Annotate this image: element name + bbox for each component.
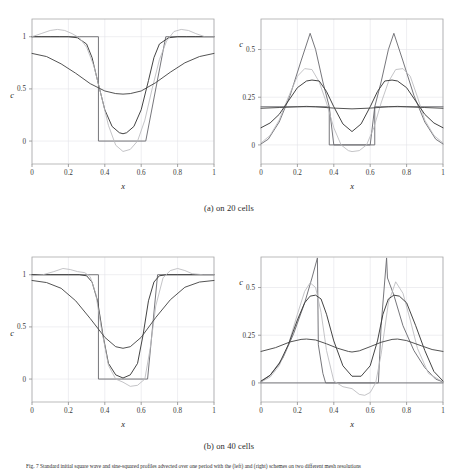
x-tick-label: 0: [259, 407, 263, 415]
series-line: [32, 275, 214, 378]
x-tick-label: 0.4: [100, 169, 109, 177]
x-tick-label: 1: [212, 407, 216, 415]
y-axis-label: c: [239, 278, 243, 287]
x-tick-label: 0.2: [293, 407, 302, 415]
x-axis-label: x: [349, 420, 354, 429]
plot-panel-top-left: 00.20.40.60.8100.51xc: [0, 0, 229, 200]
series-line: [261, 106, 443, 108]
x-tick-label: 0.6: [366, 169, 375, 177]
series-line: [32, 53, 214, 94]
y-axis-label: c: [10, 329, 14, 338]
chart-bottom-right: 00.20.40.60.8100.250.5xc: [229, 238, 458, 438]
x-tick-label: 0.2: [293, 169, 302, 177]
figure-caption: Fig. 7 Standard initial square wave and …: [26, 463, 436, 474]
y-tick-label: 0: [22, 376, 26, 384]
x-tick-label: 0: [30, 407, 34, 415]
y-tick-label: 0.25: [242, 332, 255, 340]
x-tick-label: 0.8: [173, 169, 182, 177]
series-line: [261, 295, 443, 381]
x-tick-label: 0.4: [329, 169, 338, 177]
series-line: [261, 107, 443, 145]
x-tick-label: 0.6: [137, 407, 146, 415]
subcaption-b: (b) on 40 cells: [0, 438, 458, 454]
series-line: [32, 280, 214, 348]
y-tick-label: 0.5: [17, 85, 26, 93]
panel-row-a: 00.20.40.60.8100.51xc 00.20.40.60.8100.2…: [0, 0, 458, 200]
series-line: [32, 37, 214, 134]
y-tick-label: 1: [22, 271, 26, 279]
x-tick-label: 0: [259, 169, 263, 177]
y-tick-label: 0: [251, 142, 255, 150]
y-axis-label: c: [10, 91, 14, 100]
x-tick-label: 0.4: [329, 407, 338, 415]
x-tick-label: 0.8: [173, 407, 182, 415]
y-tick-label: 0.5: [246, 284, 255, 292]
x-tick-label: 0.8: [402, 169, 411, 177]
x-axis-label: x: [349, 182, 354, 191]
x-tick-label: 0.2: [64, 407, 73, 415]
y-axis-label: c: [239, 40, 243, 49]
x-tick-label: 1: [441, 407, 445, 415]
y-tick-label: 0.5: [246, 46, 255, 54]
x-tick-label: 0.2: [64, 169, 73, 177]
series-line: [261, 33, 443, 145]
plot-panel-bottom-right: 00.20.40.60.8100.250.5xc: [229, 238, 458, 438]
x-tick-label: 0: [30, 169, 34, 177]
x-tick-label: 0.8: [402, 407, 411, 415]
y-tick-label: 0: [22, 138, 26, 146]
x-tick-label: 0.4: [100, 407, 109, 415]
y-tick-label: 0.25: [242, 94, 255, 102]
figure-container: 00.20.40.60.8100.51xc 00.20.40.60.8100.2…: [0, 0, 458, 474]
series-line: [261, 80, 443, 132]
subcaption-a: (a) on 20 cells: [0, 200, 458, 216]
y-tick-label: 0: [251, 380, 255, 388]
panel-row-b: 00.20.40.60.8100.51xc 00.20.40.60.8100.2…: [0, 238, 458, 438]
y-tick-label: 1: [22, 33, 26, 41]
series-line: [261, 282, 443, 396]
series-line: [261, 69, 443, 152]
x-tick-label: 0.6: [366, 407, 375, 415]
x-axis-label: x: [120, 182, 125, 191]
row-gap-spacer: [0, 216, 458, 238]
chart-bottom-left: 00.20.40.60.8100.51xc: [0, 238, 229, 438]
series-line: [261, 258, 443, 383]
plot-panel-bottom-left: 00.20.40.60.8100.51xc: [0, 238, 229, 438]
x-tick-label: 0.6: [137, 169, 146, 177]
plot-panel-top-right: 00.20.40.60.8100.250.5xc: [229, 0, 458, 200]
series-line: [32, 29, 214, 151]
x-tick-label: 1: [212, 169, 216, 177]
y-tick-label: 0.5: [17, 323, 26, 331]
chart-top-left: 00.20.40.60.8100.51xc: [0, 0, 229, 200]
x-tick-label: 1: [441, 169, 445, 177]
chart-top-right: 00.20.40.60.8100.250.5xc: [229, 0, 458, 200]
x-axis-label: x: [120, 420, 125, 429]
